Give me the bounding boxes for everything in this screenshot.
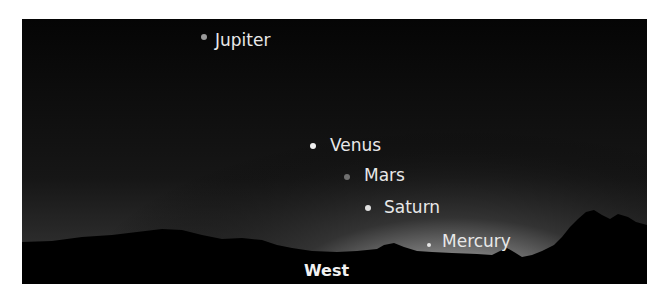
venus-label: Venus: [330, 137, 381, 154]
mercury-dot: [427, 243, 431, 247]
night-sky-panel: Jupiter Venus Mars Saturn Mercury West: [22, 19, 647, 284]
jupiter-dot: [201, 34, 207, 40]
direction-label-west: West: [304, 261, 349, 280]
jupiter-label: Jupiter: [215, 32, 270, 49]
mercury-label: Mercury: [442, 233, 511, 250]
mars-label: Mars: [364, 167, 405, 184]
saturn-label: Saturn: [384, 199, 440, 216]
mars-dot: [344, 174, 350, 180]
saturn-dot: [365, 205, 371, 211]
venus-dot: [310, 143, 316, 149]
